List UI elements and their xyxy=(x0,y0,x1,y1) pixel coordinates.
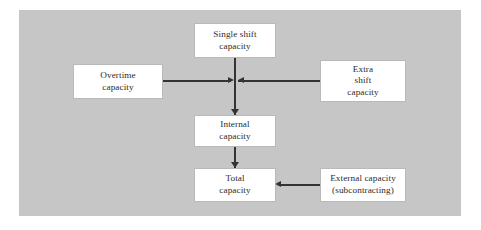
node-label-line: Single shift xyxy=(213,29,256,41)
node-label-line: Total xyxy=(225,173,244,185)
node-label-line: capacity xyxy=(219,185,250,197)
node-label-line: shift xyxy=(355,75,372,87)
node-label-line: capacity xyxy=(102,82,133,94)
node-total-capacity: Total capacity xyxy=(194,168,276,202)
node-label-line: External capacity xyxy=(330,173,396,185)
node-label-line: Extra xyxy=(353,64,373,76)
node-label-line: capacity xyxy=(219,41,250,53)
connector-single-shift-to-internal xyxy=(234,58,236,115)
node-external-capacity: External capacity (subcontracting) xyxy=(320,168,406,202)
node-label-line: capacity xyxy=(347,87,378,99)
node-internal-capacity: Internal capacity xyxy=(194,115,276,147)
node-label-line: Overtime xyxy=(100,70,136,82)
node-single-shift-capacity: Single shift capacity xyxy=(194,23,276,58)
connector-external-to-total xyxy=(279,184,320,186)
node-overtime-capacity: Overtime capacity xyxy=(73,64,163,99)
node-extra-shift-capacity: Extra shift capacity xyxy=(320,60,406,102)
node-label-line: capacity xyxy=(219,131,250,143)
arrowhead-right-icon xyxy=(228,77,234,83)
connector-extra-shift-to-junction xyxy=(238,80,320,82)
connector-overtime-to-junction xyxy=(163,80,231,82)
arrowhead-left-icon xyxy=(238,77,244,83)
node-label-line: (subcontracting) xyxy=(332,185,394,197)
capacity-flow-diagram: Single shift capacity Overtime capacity … xyxy=(0,0,481,230)
node-label-line: Internal xyxy=(220,119,249,131)
